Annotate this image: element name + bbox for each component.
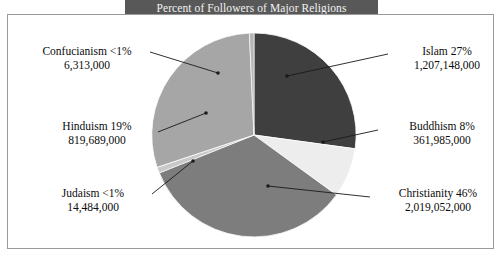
leader-dot-confucianism: [216, 71, 220, 75]
label-hinduism-percent: Hinduism 19%: [30, 119, 164, 133]
label-buddhism-count: 361,985,000: [383, 133, 501, 147]
leader-dot-christianity: [266, 184, 270, 188]
chart-page: Percent of Followers of Major Religions: [0, 0, 502, 260]
label-christianity-percent: Christianity 46%: [374, 186, 502, 200]
pie-slices: [152, 33, 356, 237]
label-judaism: Judaism <1% 14,484,000: [26, 186, 160, 214]
leader-dot-buddhism: [321, 140, 325, 144]
label-christianity: Christianity 46% 2,019,052,000: [374, 186, 502, 214]
label-buddhism: Buddhism 8% 361,985,000: [383, 119, 501, 147]
label-confucianism-count: 6,313,000: [12, 58, 162, 72]
label-buddhism-percent: Buddhism 8%: [383, 119, 501, 133]
label-confucianism: Confucianism <1% 6,313,000: [12, 44, 162, 72]
label-islam-count: 1,207,148,000: [393, 58, 501, 72]
label-christianity-count: 2,019,052,000: [374, 200, 502, 214]
slice-islam[interactable]: [254, 33, 356, 149]
leader-dot-judaism: [191, 159, 195, 163]
label-hinduism: Hinduism 19% 819,689,000: [30, 119, 164, 147]
leader-dot-islam: [285, 74, 289, 78]
leader-dot-hinduism: [204, 111, 208, 115]
label-hinduism-count: 819,689,000: [30, 133, 164, 147]
label-judaism-count: 14,484,000: [26, 200, 160, 214]
label-islam-percent: Islam 27%: [393, 44, 501, 58]
label-judaism-percent: Judaism <1%: [26, 186, 160, 200]
label-islam: Islam 27% 1,207,148,000: [393, 44, 501, 72]
label-confucianism-percent: Confucianism <1%: [12, 44, 162, 58]
